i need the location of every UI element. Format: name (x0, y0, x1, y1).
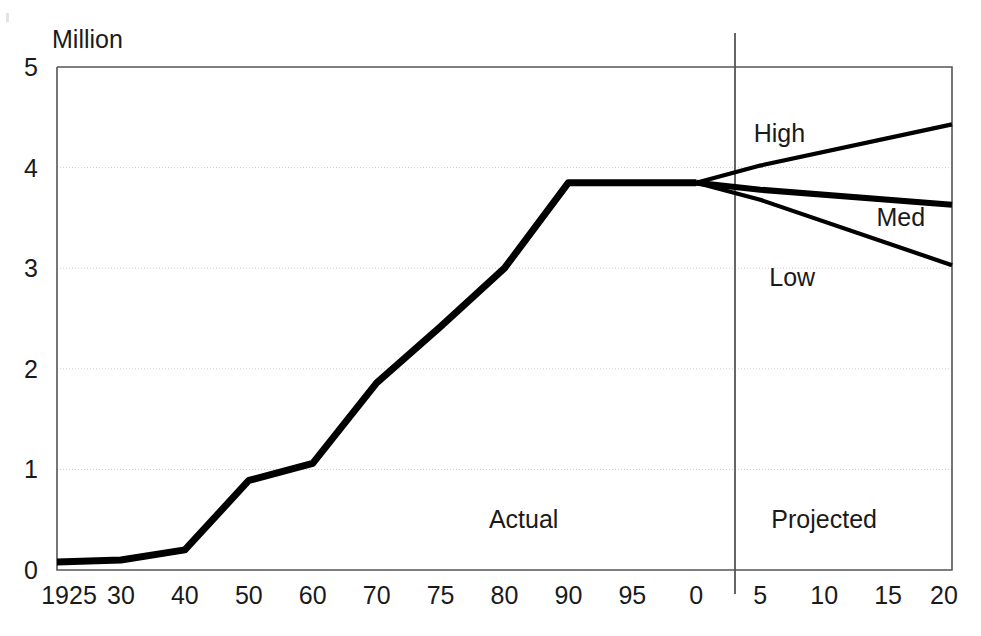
y-tick-label: 3 (24, 254, 38, 282)
x-tick-label: 80 (491, 581, 519, 609)
x-tick-label: 50 (235, 581, 263, 609)
y-tick-label: 4 (24, 154, 38, 182)
annotation-high: High (754, 119, 805, 147)
y-tick-label: 0 (24, 556, 38, 584)
y-tick-label: 2 (24, 355, 38, 383)
region-label-actual: Actual (489, 505, 558, 533)
x-tick-label: 60 (299, 581, 327, 609)
x-tick-label: 15 (874, 581, 902, 609)
annotation-med: Med (877, 203, 926, 231)
scan-artifact (6, 13, 9, 22)
x-tick-label: 40 (171, 581, 199, 609)
y-tick-label: 1 (24, 455, 38, 483)
x-tick-label: 10 (810, 581, 838, 609)
x-tick-label: 20 (930, 581, 958, 609)
x-tick-label: 0 (689, 581, 703, 609)
chart-background (0, 0, 981, 636)
x-axis-tick-labels: 192530405060707580909505101520 (41, 581, 958, 609)
x-tick-label: 30 (107, 581, 135, 609)
population-projection-chart: 012345 192530405060707580909505101520 Hi… (0, 0, 981, 636)
x-tick-label: 1925 (41, 581, 97, 609)
x-tick-label: 5 (753, 581, 767, 609)
y-axis-unit-label: Million (52, 25, 123, 53)
region-label-projected: Projected (771, 505, 877, 533)
x-tick-label: 75 (427, 581, 455, 609)
y-tick-label: 5 (24, 53, 38, 81)
x-tick-label: 90 (555, 581, 583, 609)
chart-svg: 012345 192530405060707580909505101520 Hi… (0, 0, 981, 636)
x-tick-label: 70 (363, 581, 391, 609)
x-tick-label: 95 (618, 581, 646, 609)
annotation-low: Low (769, 263, 816, 291)
